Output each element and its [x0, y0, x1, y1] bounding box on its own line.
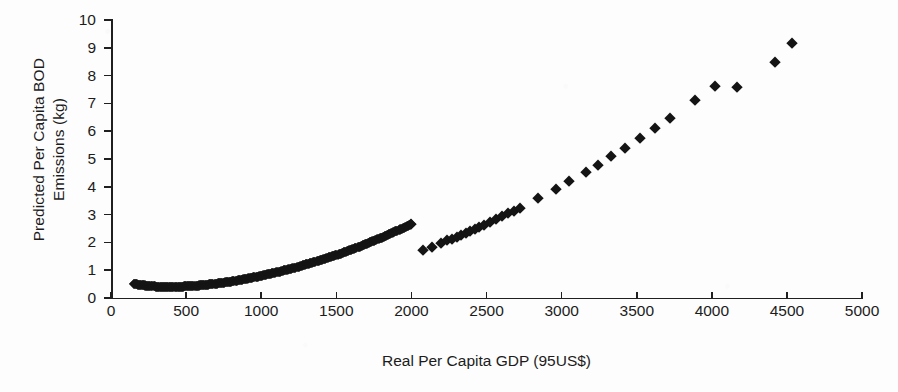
y-axis-title-line-1: Predicted Per Capita BOD: [31, 58, 47, 241]
y-tick-label-2: 2: [56, 234, 96, 250]
y-tick-label-4: 4: [56, 179, 96, 195]
y-tick-label-1: 1: [56, 262, 96, 278]
y-tick-3: [104, 214, 111, 216]
x-tick-label-1500: 1500: [301, 303, 371, 319]
data-point-marker: [664, 112, 675, 123]
plot-area: [111, 20, 862, 298]
data-point-marker: [634, 132, 645, 143]
y-tick-9: [104, 47, 111, 49]
x-tick-label-2000: 2000: [376, 303, 446, 319]
data-point-marker: [786, 38, 797, 49]
y-tick-2: [104, 242, 111, 244]
x-tick-label-3000: 3000: [527, 303, 597, 319]
x-tick-label-2500: 2500: [452, 303, 522, 319]
data-point-marker: [769, 56, 780, 67]
data-point-marker: [580, 166, 591, 177]
x-axis-title: Real Per Capita GDP (95US$): [111, 352, 862, 370]
y-tick-1: [104, 269, 111, 271]
y-tick-10: [104, 19, 111, 21]
y-tick-label-5: 5: [56, 151, 96, 167]
x-tick-label-0: 0: [76, 303, 146, 319]
x-tick-label-5000: 5000: [827, 303, 897, 319]
data-point-marker: [690, 94, 701, 105]
data-point-marker: [550, 183, 561, 194]
y-tick-label-6: 6: [56, 123, 96, 139]
data-point-marker: [709, 80, 720, 91]
data-point-marker: [564, 176, 575, 187]
x-tick-label-500: 500: [151, 303, 221, 319]
y-tick-label-9: 9: [56, 40, 96, 56]
data-point-marker: [732, 81, 743, 92]
data-point-marker: [532, 193, 543, 204]
y-tick-label-8: 8: [56, 68, 96, 84]
data-point-marker: [619, 142, 630, 153]
chart-container: Predicted Per Capita BOD Emissions (kg) …: [0, 0, 898, 392]
y-tick-label-10: 10: [56, 12, 96, 28]
x-tick-label-4000: 4000: [677, 303, 747, 319]
y-tick-5: [104, 158, 111, 160]
x-tick-label-3500: 3500: [602, 303, 672, 319]
y-tick-label-3: 3: [56, 207, 96, 223]
y-tick-6: [104, 130, 111, 132]
data-point-marker: [649, 123, 660, 134]
y-tick-8: [104, 75, 111, 77]
data-point-marker: [606, 151, 617, 162]
data-point-marker: [592, 159, 603, 170]
y-tick-4: [104, 186, 111, 188]
y-tick-label-7: 7: [56, 95, 96, 111]
x-tick-label-4500: 4500: [752, 303, 822, 319]
y-tick-7: [104, 103, 111, 105]
x-tick-label-1000: 1000: [226, 303, 296, 319]
